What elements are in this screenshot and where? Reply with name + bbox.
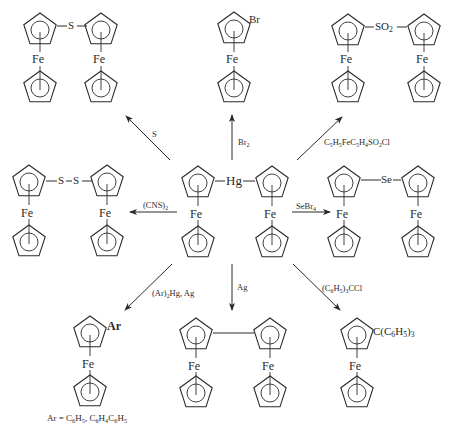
label-fe: Fe: [264, 208, 276, 220]
reagent-bromine: Br2: [238, 138, 249, 149]
label-s-bridge: S: [73, 175, 79, 186]
reagent-selenium-tetrabromide: SeBr4: [296, 202, 316, 213]
footnote-aryl-definition: Ar = C6H5, C6H4C6H5: [47, 414, 127, 424]
label-se-bridge: Se: [381, 174, 392, 185]
label-s-bridge: S: [58, 175, 64, 186]
label-fe: Fe: [262, 360, 274, 372]
reagent-sulfur: S: [152, 130, 157, 139]
label-fe: Fe: [82, 358, 94, 370]
label-fe: Fe: [340, 53, 352, 65]
reagent-diarylmercury-silver: (Ar)2Hg, Ag: [152, 289, 194, 300]
label-trityl-substituent: C(C6H5)3: [373, 326, 415, 339]
label-fe: Fe: [416, 53, 428, 65]
reagent-thiocyanogen: (CNS)2: [143, 201, 168, 212]
label-fe: Fe: [190, 208, 202, 220]
label-fe: Fe: [188, 360, 200, 372]
arrow-up-left: [126, 116, 170, 160]
label-fe: Fe: [32, 53, 44, 65]
label-fe: Fe: [99, 207, 111, 219]
arrow-down-left: [125, 264, 172, 310]
label-s-bridge: S: [68, 20, 74, 31]
label-fe: Fe: [410, 208, 422, 220]
label-fe: Fe: [21, 207, 33, 219]
reagent-trityl-chloride: (C6H5)3CCl: [322, 284, 362, 295]
reagent-silver: Ag: [237, 283, 247, 292]
reagent-sulfonyl-chloride: C5H5FeC5H4SO2Cl: [324, 138, 390, 149]
label-so2-bridge: SO2: [375, 21, 393, 34]
label-ar-substituent: Ar: [107, 320, 121, 332]
label-br-substituent: Br: [249, 14, 260, 25]
label-hg-bridge: Hg: [226, 174, 242, 187]
label-fe: Fe: [349, 360, 361, 372]
label-fe: Fe: [336, 208, 348, 220]
label-fe: Fe: [226, 53, 238, 65]
label-fe: Fe: [93, 53, 105, 65]
